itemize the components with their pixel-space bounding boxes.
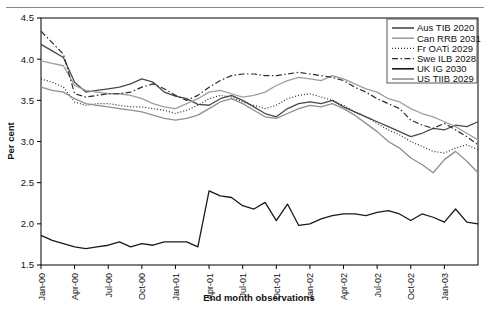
- line-chart: 1.52.02.53.03.54.04.5 Jan-00Apr-00Jul-00…: [0, 0, 490, 310]
- series-line-us-tiib-2029: [41, 87, 478, 173]
- chart-page: 1.52.02.53.03.54.04.5 Jan-00Apr-00Jul-00…: [0, 0, 490, 310]
- x-axis-title: End month observations: [203, 292, 314, 303]
- y-axis-title: Per cent: [5, 121, 16, 159]
- x-tick-label: Apr-00: [70, 273, 80, 300]
- x-tick-label: Oct-00: [137, 273, 147, 300]
- y-tick-label: 1.5: [21, 259, 34, 270]
- series-line-fr-oati-2029: [41, 79, 478, 153]
- x-tick-label: Jan-03: [440, 273, 450, 301]
- legend-label-5: US TIIB 2029: [417, 73, 474, 84]
- y-tick-label: 2.0: [21, 218, 34, 229]
- y-tick-label: 4.5: [21, 12, 34, 23]
- x-tick-label: Apr-02: [339, 273, 349, 300]
- x-tick-label: Jul-02: [373, 273, 383, 298]
- chart-legend: Aus TIB 2020Can RRB 2031Fr OATi 2029Swe …: [387, 19, 481, 84]
- y-tick-label: 2.5: [21, 177, 34, 188]
- x-tick-label: Jan-00: [37, 273, 47, 301]
- x-tick-label: Jul-00: [104, 273, 114, 298]
- y-tick-label: 3.5: [21, 95, 34, 106]
- y-tick-label: 4.0: [21, 54, 34, 65]
- chart-svg: 1.52.02.53.03.54.04.5 Jan-00Apr-00Jul-00…: [0, 0, 490, 310]
- x-tick-label: Oct-02: [406, 273, 416, 300]
- x-tick-label: Jan-01: [171, 273, 181, 301]
- y-axis: 1.52.02.53.03.54.04.5: [21, 12, 41, 270]
- series-line-uk-ig-2030: [41, 191, 478, 249]
- y-tick-label: 3.0: [21, 136, 34, 147]
